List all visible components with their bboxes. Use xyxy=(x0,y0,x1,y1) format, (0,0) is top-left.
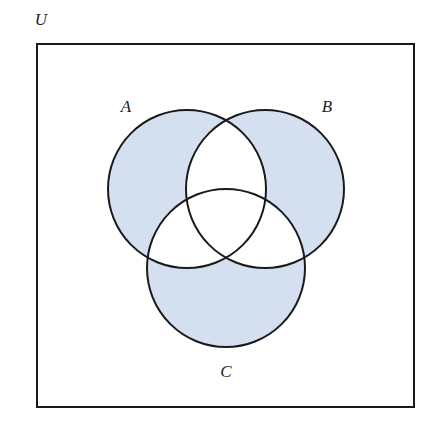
set-label-c: C xyxy=(220,362,232,381)
set-label-a: A xyxy=(120,97,132,116)
set-label-b: B xyxy=(322,97,333,116)
venn-diagram: U A B C xyxy=(0,0,433,428)
region-c-only xyxy=(0,0,433,428)
